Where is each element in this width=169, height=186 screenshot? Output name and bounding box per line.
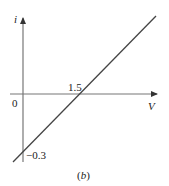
y-axis-label: i bbox=[14, 14, 17, 25]
x-axis-label: V bbox=[148, 101, 155, 112]
figure-caption: (b) bbox=[77, 170, 90, 181]
iv-characteristic-line bbox=[13, 16, 156, 162]
y-intercept-label: −0.3 bbox=[26, 150, 46, 161]
origin-label: 0 bbox=[12, 98, 18, 109]
x-intercept-label: 1.5 bbox=[68, 82, 82, 93]
